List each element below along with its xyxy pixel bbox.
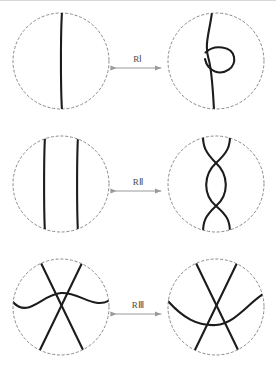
disk-outline-r2-left bbox=[13, 136, 109, 232]
disk-outline-r2-right bbox=[168, 136, 264, 232]
strand-r1-left-vertical bbox=[61, 12, 62, 110]
strand-r3-left-diag-b bbox=[38, 261, 83, 354]
label-r3: RⅢ bbox=[132, 300, 144, 310]
label-r1: RⅠ bbox=[133, 54, 142, 64]
strand-r3-right-diag-b bbox=[193, 261, 238, 354]
row-r1-group: RⅠ bbox=[13, 12, 264, 110]
reidemeister-moves-figure: RⅠ RⅡ bbox=[0, 0, 276, 369]
strand-r3-left-diag-a bbox=[40, 261, 85, 354]
label-r2: RⅡ bbox=[133, 177, 143, 187]
strand-r3-right-horizontal bbox=[167, 293, 265, 325]
strand-r1-right-main bbox=[207, 12, 214, 110]
strand-r2-left-a bbox=[44, 136, 45, 233]
row-r3-group: RⅢ bbox=[12, 259, 265, 355]
row-r2-group: RⅡ bbox=[13, 136, 264, 233]
strand-r2-left-b bbox=[77, 136, 78, 233]
disk-outline-r1-right bbox=[168, 13, 264, 109]
strand-r3-right-diag-a bbox=[195, 261, 240, 354]
